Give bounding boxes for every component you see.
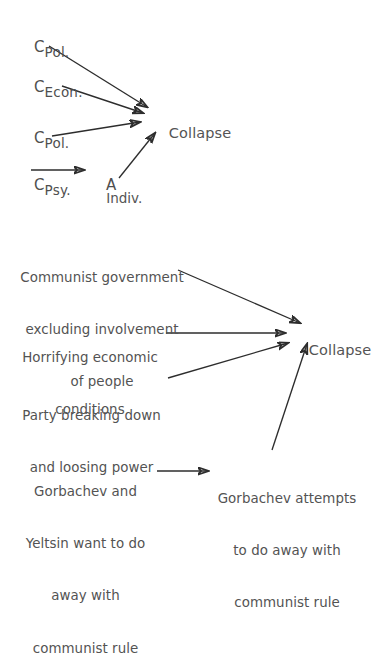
collapse-1-label: Collapse (169, 125, 231, 141)
node-collapse-2: Collapse (290, 325, 371, 375)
edge-communist-government-to-collapse (178, 270, 300, 323)
gorbachev-yeltsin-line-2: Yeltsin want to do (14, 535, 157, 552)
node-gorbachev-attempts: Gorbachev attempts to do away with commu… (212, 455, 362, 647)
gorbachev-yeltsin-line-4: communist rule (14, 640, 157, 657)
c-pol-2-subscript: Pol. (45, 135, 70, 151)
horrifying-conditions-line-1: Horrifying economic (14, 349, 166, 366)
node-collapse-1: Collapse (150, 108, 231, 158)
c-econ-symbol: C (34, 78, 45, 96)
node-c-psy: CPsy. (14, 160, 71, 212)
gorbachev-attempts-line-1: Gorbachev attempts (212, 490, 362, 507)
node-c-pol-2: CPol. (14, 113, 69, 165)
communist-government-line-1: Communist government (14, 269, 190, 286)
c-psy-subscript: Psy. (45, 182, 71, 198)
gorbachev-yeltsin-line-1: Gorbachev and (14, 483, 157, 500)
a-indiv-subscript: Indiv. (106, 190, 142, 206)
collapse-2-label: Collapse (309, 342, 371, 358)
gorbachev-attempts-line-2: to do away with (212, 542, 362, 559)
c-pol-2-symbol: C (34, 129, 45, 147)
party-breaking-down-line-1: Party breaking down (14, 407, 169, 424)
c-econ-subscript: Econ. (45, 84, 83, 100)
gorbachev-yeltsin-line-3: away with (14, 587, 157, 604)
node-gorbachev-yeltsin-want: Gorbachev and Yeltsin want to do away wi… (14, 448, 157, 657)
node-c-econ: CEcon. (14, 62, 83, 114)
c-pol-1-symbol: C (34, 38, 45, 56)
node-a-indiv-subscript: Indiv. (89, 175, 142, 222)
c-pol-1-subscript: Pol. (45, 44, 70, 60)
gorbachev-attempts-line-3: communist rule (212, 594, 362, 611)
c-psy-symbol: C (34, 176, 45, 194)
